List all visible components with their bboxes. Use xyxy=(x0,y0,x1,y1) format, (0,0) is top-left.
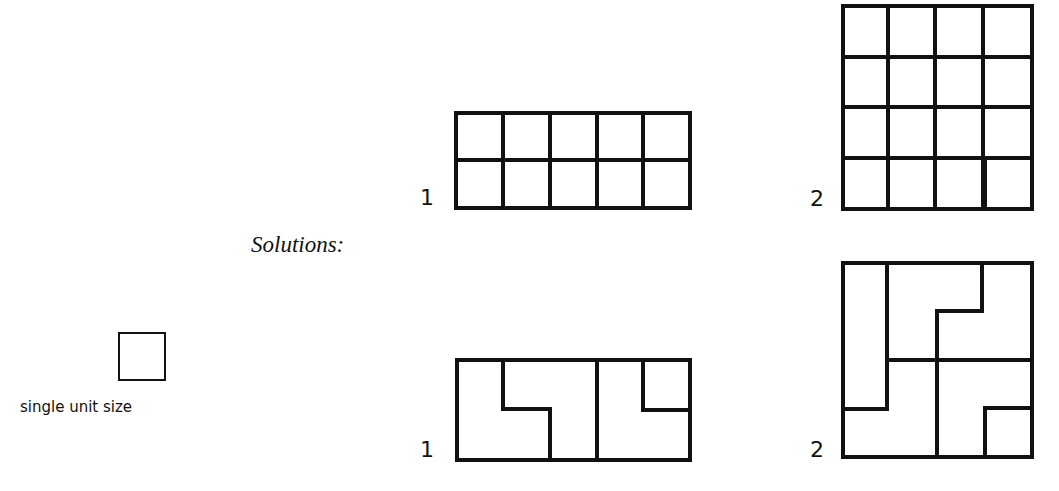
puzzle-2-label: 2 xyxy=(810,186,824,211)
puzzle-1 xyxy=(456,113,690,208)
solutions-title: Solutions: xyxy=(251,232,344,257)
shaded-cell xyxy=(643,113,690,160)
solution-2-label: 2 xyxy=(810,437,824,462)
shaded-cell xyxy=(985,408,1032,457)
unit-square-icon xyxy=(119,333,165,380)
puzzle-diagram: 1 2 Solutions: single unit size 1 2 xyxy=(0,0,1059,491)
shaded-cell xyxy=(643,360,690,410)
solution-1 xyxy=(457,360,690,460)
puzzle-2 xyxy=(843,6,1032,209)
legend-label: single unit size xyxy=(20,398,132,416)
solution-2 xyxy=(843,263,1032,457)
puzzle-1-label: 1 xyxy=(420,185,434,210)
shaded-cell xyxy=(985,158,1032,209)
solution-1-label: 1 xyxy=(420,437,434,462)
